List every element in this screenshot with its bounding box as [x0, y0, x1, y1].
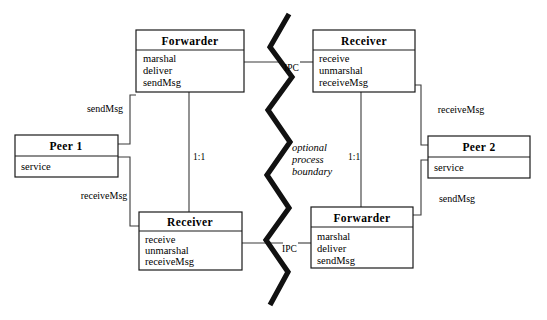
class-operation: receiveMsg — [145, 256, 195, 267]
label-sendmsg-right: sendMsg — [439, 193, 475, 204]
class-box-peer-1[interactable]: Peer 1 service — [15, 135, 118, 177]
class-operation: deliver — [317, 243, 347, 254]
uml-diagram-svg: Forwarder marshal deliver sendMsg Receiv… — [0, 0, 547, 320]
label-receivemsg-left: receiveMsg — [81, 190, 128, 201]
class-box-forwarder-top[interactable]: Forwarder marshal deliver sendMsg — [136, 30, 244, 92]
class-operation: unmarshal — [145, 245, 189, 256]
class-operation: marshal — [143, 53, 176, 64]
label-multiplicity-left: 1:1 — [193, 152, 205, 162]
class-operation: service — [434, 162, 464, 173]
class-operation: service — [21, 161, 51, 172]
class-operation: deliver — [143, 65, 173, 76]
class-operation: unmarshal — [319, 65, 363, 76]
class-operation: sendMsg — [143, 77, 182, 88]
label-ipc-top: IPC — [284, 63, 299, 73]
label-ipc-bottom: IPC — [282, 244, 297, 254]
label-boundary-line-1: optional — [292, 142, 327, 153]
class-operation: marshal — [317, 231, 350, 242]
class-box-forwarder-bottom[interactable]: Forwarder marshal deliver sendMsg — [311, 207, 413, 268]
connector-forwarder-peer2 — [413, 160, 428, 215]
diagram-canvas: Forwarder marshal deliver sendMsg Receiv… — [0, 0, 547, 320]
label-receivemsg-right: receiveMsg — [438, 104, 485, 115]
class-title: Peer 1 — [49, 140, 82, 152]
class-operation: receiveMsg — [319, 77, 369, 88]
class-title: Peer 2 — [462, 141, 495, 153]
label-multiplicity-right: 1:1 — [348, 152, 360, 162]
class-title: Forwarder — [161, 35, 218, 47]
class-title: Receiver — [167, 216, 213, 228]
process-boundary-zigzag — [266, 14, 292, 305]
label-sendmsg-left: sendMsg — [87, 103, 123, 114]
label-boundary-line-2: process — [291, 154, 324, 165]
class-operation: receive — [319, 53, 350, 64]
label-boundary-line-3: boundary — [292, 166, 333, 177]
class-operation: receive — [145, 234, 176, 245]
class-box-peer-2[interactable]: Peer 2 service — [428, 136, 530, 178]
class-box-receiver-top[interactable]: Receiver receive unmarshal receiveMsg — [313, 30, 415, 92]
class-operation: sendMsg — [317, 255, 356, 266]
class-title: Receiver — [341, 35, 387, 47]
class-box-receiver-bottom[interactable]: Receiver receive unmarshal receiveMsg — [139, 212, 242, 270]
class-title: Forwarder — [333, 212, 390, 224]
connector-receiver-peer2 — [415, 85, 428, 145]
